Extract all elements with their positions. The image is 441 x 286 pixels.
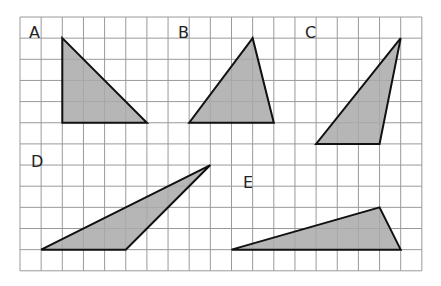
label-e: E [243, 173, 253, 192]
label-b: B [178, 23, 189, 42]
grid-diagram: A B C D E [0, 0, 441, 286]
label-d: D [31, 152, 43, 171]
label-c: C [305, 23, 316, 42]
label-a: A [29, 23, 40, 42]
